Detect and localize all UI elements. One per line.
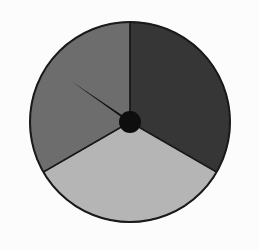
spinner-wheel[interactable]: Spinner <box>0 0 259 250</box>
spinner-hub[interactable] <box>119 111 141 133</box>
spinner-graphic[interactable] <box>0 0 259 250</box>
